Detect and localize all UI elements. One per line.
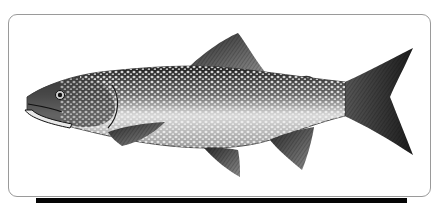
pelvic-fin xyxy=(204,148,240,177)
caudal-fin xyxy=(340,48,413,155)
bottom-black-bar xyxy=(36,198,407,203)
lake-trout-illustration xyxy=(0,0,441,203)
fish-head xyxy=(25,78,118,128)
